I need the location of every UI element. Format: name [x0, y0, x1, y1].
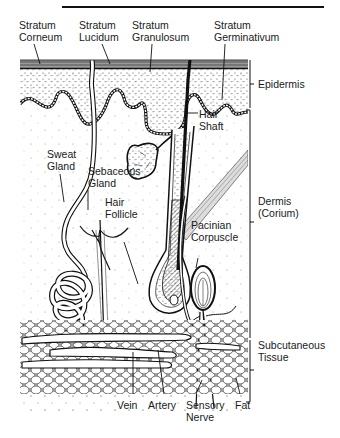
- label-stratum-germinativum: Stratum Germinativum: [214, 19, 279, 43]
- label-pacinian-corpuscle: Pacinian Corpuscle: [191, 219, 238, 243]
- pacinian-corpuscle-shape: [191, 266, 215, 310]
- label-fat: Fat: [235, 399, 250, 411]
- label-vein: Vein: [117, 399, 137, 411]
- label-stratum-lucidum: Stratum Lucidum: [79, 19, 119, 43]
- skin-anatomy-diagram: Stratum Corneum Stratum Lucidum Stratum …: [0, 0, 340, 438]
- label-dermis: Dermis (Corium): [258, 195, 299, 219]
- label-stratum-granulosum: Stratum Granulosum: [132, 19, 189, 43]
- label-subcutaneous-tissue: Subcutaneous Tissue: [258, 339, 325, 363]
- label-stratum-corneum: Stratum Corneum: [19, 19, 62, 43]
- skin-illustration: [0, 0, 340, 438]
- label-hair-shaft: Hair Shaft: [199, 108, 224, 132]
- label-artery: Artery: [148, 399, 176, 411]
- label-epidermis: Epidermis: [258, 78, 305, 90]
- label-sebaceous-gland: Sebaceous Gland: [88, 165, 141, 189]
- label-sweat-gland: Sweat Gland: [47, 148, 76, 172]
- label-sensory-nerve: Sensory Nerve: [186, 399, 225, 423]
- label-hair-follicle: Hair Follicle: [105, 196, 138, 220]
